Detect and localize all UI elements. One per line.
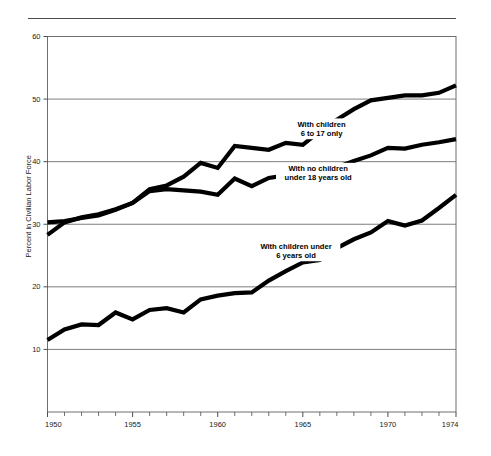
annotation-line-2-0: With children under [260,242,331,251]
x-axis-tick-labels: 195019551960196519701974 [45,420,459,429]
y-tick-label-60: 60 [32,32,40,41]
line-chart: 102030405060 195019551960196519701974 Wi… [0,0,491,456]
annotation-line-2-1: 6 years old [276,251,316,260]
header-rule [28,18,456,19]
series-line-2 [48,195,457,340]
y-axis-title: Percent in Civilian Labor Force [24,155,33,258]
y-tick-label-50: 50 [32,95,40,104]
y-tick-label-20: 20 [32,282,40,291]
y-axis-tick-labels: 102030405060 [32,32,40,354]
x-tick-label-1970: 1970 [380,420,397,429]
x-tick-label-1974: 1974 [442,420,459,429]
annotation-series-1: With no childrenunder 18 years old [276,163,360,184]
chart-figure: 102030405060 195019551960196519701974 Wi… [0,0,491,456]
annotation-series-0: With children6 to 17 only [290,118,353,139]
x-axis-ticks [44,37,457,418]
x-tick-label-1965: 1965 [294,420,311,429]
y-axis-title-text: Percent in Civilian Labor Force [24,155,33,258]
annotation-line-1-1: under 18 years old [285,173,352,182]
y-tick-label-40: 40 [32,157,40,166]
x-tick-label-1960: 1960 [209,420,226,429]
annotation-line-1-0: With no children [288,164,348,173]
annotation-line-0-0: With children [298,120,346,129]
annotation-series-2: With children under6 years old [252,240,341,261]
y-tick-label-30: 30 [32,220,40,229]
x-tick-label-1955: 1955 [124,420,141,429]
annotation-line-0-1: 6 to 17 only [301,129,344,138]
data-series-lines [48,85,457,340]
x-tick-label-1950: 1950 [45,420,62,429]
y-tick-label-10: 10 [32,345,40,354]
